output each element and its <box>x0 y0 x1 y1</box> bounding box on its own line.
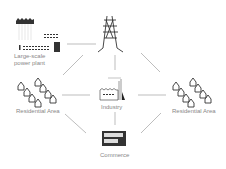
houses-icon <box>18 78 56 107</box>
energy-distribution-diagram: Large-scale power plant Residential Area… <box>0 0 226 169</box>
power-plant-label-line1: Large-scale <box>14 53 45 60</box>
edge-resright-commerce <box>141 113 161 133</box>
residential-left-label: Residential Area <box>16 108 60 115</box>
factory-icon <box>100 78 125 100</box>
power-plant-label: Large-scale power plant <box>14 53 45 67</box>
edge-tower-resright <box>141 53 160 72</box>
transmission-tower-icon <box>98 16 123 52</box>
power-plant-icon <box>16 18 60 52</box>
residential-right-label: Residential Area <box>172 108 216 115</box>
houses-icon <box>173 78 211 107</box>
connector-lines <box>0 0 226 169</box>
commerce-label: Commerce <box>100 152 129 159</box>
power-plant-label-line2: power plant <box>14 60 45 67</box>
commercial-building-icon <box>102 131 126 146</box>
industry-label: Industry <box>101 104 122 111</box>
edge-resleft-commerce <box>65 114 86 133</box>
edge-tower-resleft <box>63 55 83 75</box>
